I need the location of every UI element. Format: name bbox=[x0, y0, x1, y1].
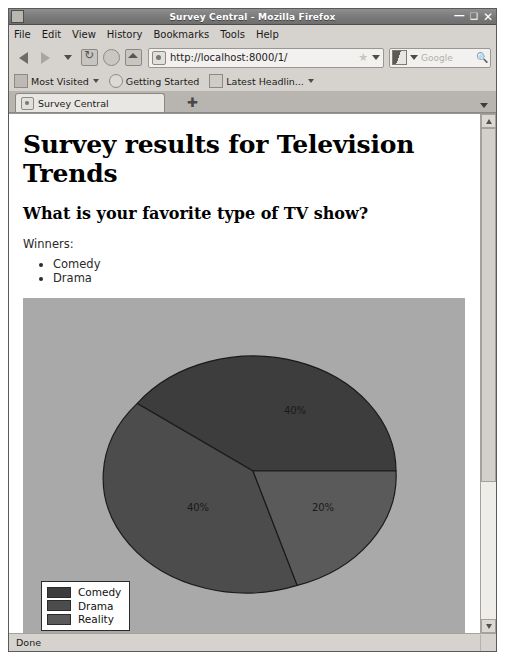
minimize-icon[interactable]: — bbox=[454, 10, 465, 21]
tab-strip: Survey Central ✚ bbox=[9, 91, 496, 113]
scrollbar-thumb[interactable] bbox=[481, 128, 496, 482]
caret-down-icon bbox=[486, 624, 492, 629]
page-title: Survey results for Television Trends bbox=[23, 130, 466, 188]
list-item: Drama bbox=[53, 271, 466, 285]
rss-icon bbox=[209, 74, 223, 88]
page-icon bbox=[109, 74, 123, 88]
history-dropdown-button[interactable] bbox=[58, 48, 77, 67]
vertical-scrollbar[interactable] bbox=[480, 114, 496, 633]
back-arrow-icon bbox=[19, 52, 28, 64]
chevron-down-icon[interactable] bbox=[372, 55, 380, 60]
legend-label: Comedy bbox=[78, 586, 121, 599]
window-titlebar: Survey Central - Mozilla Firefox — ❑ ✕ bbox=[9, 9, 496, 25]
star-icon[interactable]: ★ bbox=[358, 51, 368, 64]
home-icon bbox=[125, 49, 142, 66]
page-subtitle: What is your favorite type of TV show? bbox=[23, 204, 466, 223]
new-tab-button[interactable]: ✚ bbox=[187, 96, 198, 112]
menu-file[interactable]: File bbox=[14, 29, 31, 40]
back-button[interactable] bbox=[14, 48, 33, 67]
caret-up-icon bbox=[486, 119, 492, 124]
globe-icon bbox=[21, 97, 34, 110]
close-icon[interactable]: ✕ bbox=[483, 11, 493, 23]
legend-label: Reality bbox=[78, 613, 114, 626]
legend-swatch-drama bbox=[47, 600, 71, 611]
globe-icon bbox=[152, 51, 166, 65]
status-text: Done bbox=[16, 637, 41, 648]
scrollbar-track[interactable] bbox=[481, 128, 496, 619]
forward-button[interactable] bbox=[36, 48, 55, 67]
forward-arrow-icon bbox=[41, 52, 50, 64]
legend-item-reality: Reality bbox=[47, 613, 121, 626]
content-viewport: Survey results for Television Trends Wha… bbox=[9, 113, 496, 633]
menu-bar: File Edit View History Bookmarks Tools H… bbox=[9, 25, 496, 44]
status-bar: Done bbox=[9, 633, 496, 651]
menu-tools[interactable]: Tools bbox=[220, 29, 245, 40]
legend-swatch-reality bbox=[47, 614, 71, 625]
chevron-down-icon[interactable] bbox=[410, 55, 418, 60]
stop-button[interactable] bbox=[102, 48, 121, 67]
pie-label-comedy: 40% bbox=[284, 405, 306, 416]
reload-icon bbox=[81, 49, 98, 66]
menu-edit[interactable]: Edit bbox=[42, 29, 61, 40]
tab-survey-central[interactable]: Survey Central bbox=[15, 93, 165, 112]
legend-swatch-comedy bbox=[47, 587, 71, 598]
chevron-down-icon bbox=[93, 79, 99, 83]
legend-label: Drama bbox=[78, 600, 114, 613]
winners-label: Winners: bbox=[23, 237, 466, 251]
pie-label-drama: 40% bbox=[187, 502, 209, 513]
legend-item-drama: Drama bbox=[47, 600, 121, 613]
chevron-down-icon[interactable] bbox=[480, 103, 488, 108]
window-controls: — ❑ ✕ bbox=[454, 9, 493, 24]
bookmark-label: Most Visited bbox=[31, 76, 89, 87]
scroll-down-button[interactable] bbox=[481, 619, 496, 633]
reload-button[interactable] bbox=[80, 48, 99, 67]
bookmarks-toolbar: Most Visited Getting Started Latest Head… bbox=[9, 71, 496, 91]
address-bar[interactable]: http://localhost:8000/1/ ★ bbox=[148, 48, 384, 68]
menu-help[interactable]: Help bbox=[256, 29, 279, 40]
bookmark-most-visited[interactable]: Most Visited bbox=[14, 74, 99, 88]
web-page: Survey results for Television Trends Wha… bbox=[9, 114, 480, 633]
folder-icon bbox=[14, 74, 28, 88]
stop-icon bbox=[103, 49, 120, 66]
bookmark-latest-headlines[interactable]: Latest Headlin... bbox=[209, 74, 314, 88]
chart-legend: Comedy Drama Reality bbox=[41, 581, 130, 631]
bookmark-label: Getting Started bbox=[126, 76, 199, 87]
browser-window: Survey Central - Mozilla Firefox — ❑ ✕ F… bbox=[8, 8, 497, 652]
firefox-icon bbox=[11, 10, 24, 23]
bookmark-label: Latest Headlin... bbox=[226, 76, 304, 87]
resize-grip[interactable] bbox=[480, 635, 496, 651]
search-input[interactable]: Google bbox=[421, 53, 473, 63]
menu-bookmarks[interactable]: Bookmarks bbox=[153, 29, 209, 40]
legend-item-comedy: Comedy bbox=[47, 586, 121, 599]
chevron-down-icon bbox=[64, 55, 72, 60]
winners-list: Comedy Drama bbox=[23, 257, 466, 286]
url-input[interactable]: http://localhost:8000/1/ bbox=[170, 52, 354, 63]
search-bar[interactable]: Google 🔍 bbox=[389, 48, 491, 68]
list-item: Comedy bbox=[53, 257, 466, 271]
scroll-up-button[interactable] bbox=[481, 114, 496, 128]
menu-history[interactable]: History bbox=[107, 29, 143, 40]
home-button[interactable] bbox=[124, 48, 143, 67]
magnifier-icon[interactable]: 🔍 bbox=[476, 52, 488, 63]
menu-view[interactable]: View bbox=[72, 29, 96, 40]
tab-label: Survey Central bbox=[38, 98, 109, 109]
navigation-toolbar: http://localhost:8000/1/ ★ Google 🔍 bbox=[9, 44, 496, 71]
bookmark-getting-started[interactable]: Getting Started bbox=[109, 74, 199, 88]
search-engine-icon[interactable] bbox=[392, 50, 407, 65]
window-title: Survey Central - Mozilla Firefox bbox=[9, 12, 496, 22]
pie-chart: 40% 40% 20% Comedy Drama Realit bbox=[23, 298, 465, 633]
chevron-down-icon bbox=[308, 79, 314, 83]
pie-label-reality: 20% bbox=[312, 502, 334, 513]
maximize-icon[interactable]: ❑ bbox=[470, 12, 478, 21]
